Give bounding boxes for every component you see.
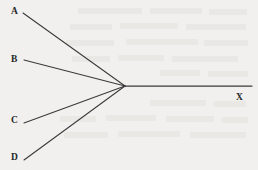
ray-line-a bbox=[23, 13, 125, 86]
ray-line-c bbox=[24, 86, 125, 123]
ray-label-a: A bbox=[11, 7, 18, 17]
ray-line-d bbox=[24, 86, 125, 160]
ray-label-b: B bbox=[11, 55, 18, 65]
ray-label-d: D bbox=[11, 153, 18, 163]
axis-label-x: X bbox=[236, 93, 243, 103]
ray-label-c: C bbox=[11, 116, 18, 126]
figure-canvas: A B C D X bbox=[0, 0, 258, 170]
ray-line-b bbox=[24, 60, 125, 86]
ray-diagram-svg bbox=[0, 0, 258, 170]
